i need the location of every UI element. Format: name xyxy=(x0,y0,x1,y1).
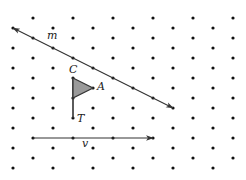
lattice-dot xyxy=(91,26,94,29)
lattice-dot xyxy=(31,156,34,159)
lattice-dot xyxy=(191,36,194,39)
lattice-dot xyxy=(211,46,214,49)
lattice-dot xyxy=(91,126,94,129)
lattice-dot xyxy=(11,46,14,49)
lattice-dot xyxy=(11,126,14,129)
lattice-dot xyxy=(191,156,194,159)
lattice-dot xyxy=(111,36,114,39)
vertex-label-a: A xyxy=(96,80,105,93)
vector-v-label: v xyxy=(82,137,89,150)
lattice-dot xyxy=(131,46,134,49)
lattice-dot xyxy=(131,146,134,149)
lattice-dot xyxy=(211,106,214,109)
lattice-dot xyxy=(151,36,154,39)
lattice-dot xyxy=(31,16,34,19)
lattice-dot xyxy=(231,76,234,79)
lattice-dot xyxy=(191,76,194,79)
lattice-dot xyxy=(51,146,54,149)
lattice-dot xyxy=(31,96,34,99)
lattice-dot xyxy=(151,116,154,119)
lattice-dot xyxy=(191,56,194,59)
lattice-dot xyxy=(111,116,114,119)
lattice-dot xyxy=(151,156,154,159)
lattice-dot xyxy=(231,156,234,159)
lattice-dot xyxy=(131,126,134,129)
lattice-dot xyxy=(171,26,174,29)
lattice-dot xyxy=(71,36,74,39)
lattice-diagram: m C A T v xyxy=(0,0,246,180)
lattice-dot xyxy=(231,16,234,19)
lattice-dot xyxy=(11,146,14,149)
lattice-dot xyxy=(191,136,194,139)
lattice-dot xyxy=(191,16,194,19)
lattice-dot xyxy=(211,126,214,129)
lattice-dot xyxy=(111,56,114,59)
lattice-dot xyxy=(171,86,174,89)
lattice-dot xyxy=(91,166,94,169)
lattice-dot xyxy=(151,76,154,79)
lattice-dot xyxy=(51,126,54,129)
lattice-dot xyxy=(171,46,174,49)
dot-grid xyxy=(11,16,234,169)
lattice-dot xyxy=(171,166,174,169)
lattice-dot xyxy=(211,66,214,69)
lattice-dot xyxy=(231,56,234,59)
lattice-dot xyxy=(11,86,14,89)
lattice-dot xyxy=(51,106,54,109)
lattice-dot xyxy=(11,166,14,169)
lattice-dot xyxy=(231,36,234,39)
lattice-dot xyxy=(131,106,134,109)
lattice-dot xyxy=(231,116,234,119)
lattice-dot xyxy=(91,46,94,49)
lattice-dot xyxy=(171,146,174,149)
lattice-dot xyxy=(111,16,114,19)
lattice-dot xyxy=(131,26,134,29)
triangle-flag xyxy=(73,78,93,98)
lattice-dot xyxy=(231,96,234,99)
lattice-dot xyxy=(171,126,174,129)
lattice-dot xyxy=(111,96,114,99)
lattice-dot xyxy=(31,116,34,119)
lattice-dot xyxy=(211,166,214,169)
lattice-dot xyxy=(131,166,134,169)
lattice-dot xyxy=(191,116,194,119)
lattice-dot xyxy=(51,166,54,169)
lattice-dot xyxy=(171,66,174,69)
lattice-dot xyxy=(211,146,214,149)
lattice-dot xyxy=(211,86,214,89)
lattice-dot xyxy=(31,76,34,79)
lattice-dot xyxy=(111,156,114,159)
lattice-dot xyxy=(11,66,14,69)
lattice-dot xyxy=(131,66,134,69)
lattice-dot xyxy=(91,106,94,109)
lattice-dot xyxy=(151,16,154,19)
vertex-label-c: C xyxy=(69,63,78,76)
lattice-dot xyxy=(191,96,194,99)
lattice-dot xyxy=(11,106,14,109)
lattice-dot xyxy=(231,136,234,139)
lattice-dot xyxy=(51,66,54,69)
lattice-dot xyxy=(91,146,94,149)
point-label-t: T xyxy=(77,112,86,125)
line-m xyxy=(13,28,173,108)
line-m-label: m xyxy=(47,29,57,42)
lattice-dot xyxy=(71,16,74,19)
lattice-dot xyxy=(31,56,34,59)
lattice-dot xyxy=(71,156,74,159)
lattice-dot xyxy=(211,26,214,29)
lattice-dot xyxy=(151,56,154,59)
lattice-dot xyxy=(51,86,54,89)
